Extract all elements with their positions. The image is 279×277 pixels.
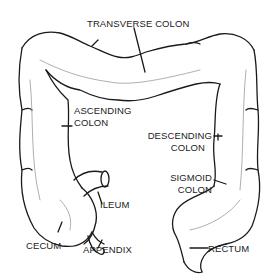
label-descending-colon-line1: DESCENDING	[144, 130, 212, 141]
label-ascending-colon-line2: COLON	[74, 117, 108, 128]
label-sigmoid-colon-line1: SIGMOID	[160, 172, 212, 183]
colon-diagram: TRANSVERSE COLON ASCENDING COLON DESCEND…	[0, 0, 279, 277]
label-appendix: APPENDIX	[83, 244, 132, 255]
label-ascending-colon-line1: ASCENDING	[74, 105, 131, 116]
label-transverse-colon: TRANSVERSE COLON	[87, 18, 189, 29]
colon-illustration	[0, 0, 279, 277]
label-descending-colon-line2: COLON	[144, 142, 205, 153]
label-rectum: RECTUM	[208, 243, 249, 254]
label-ileum: ILEUM	[100, 199, 130, 210]
label-sigmoid-colon-line2: COLON	[160, 184, 212, 195]
label-cecum: CECUM	[26, 240, 61, 251]
